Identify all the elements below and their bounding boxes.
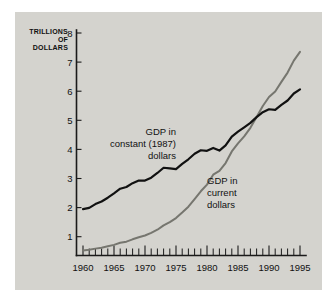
annotation-current-line-2: current: [207, 187, 237, 198]
y-axis-title-line-3: DOLLARS: [33, 44, 68, 51]
annotation-gdp-current-dollars: GDP in current dollars: [207, 175, 237, 210]
annotation-current-line-3: dollars: [207, 199, 235, 210]
x-tick-label: 1965: [103, 262, 124, 273]
x-tick-label: 1990: [258, 262, 279, 273]
y-tick-label: 8: [67, 28, 72, 39]
annotation-constant-line-2: constant (1987): [110, 138, 176, 149]
y-tick-label: 3: [67, 173, 72, 184]
y-tick-label: 1: [67, 231, 72, 242]
y-tick-label: 4: [67, 144, 72, 155]
annotation-constant-line-1: GDP in: [146, 126, 176, 137]
y-axis-title-line-1: TRILLIONS: [29, 28, 68, 35]
y-tick-label: 6: [67, 86, 72, 97]
y-tick-label: 5: [67, 115, 72, 126]
gdp-line-chart: TRILLIONS OF DOLLARS 12345678 1960196519…: [0, 0, 336, 301]
annotation-current-line-1: GDP in: [207, 175, 237, 186]
x-tick-label: 1975: [165, 262, 186, 273]
x-tick-label: 1980: [196, 262, 217, 273]
annotation-constant-line-3: dollars: [148, 150, 176, 161]
x-tick-label: 1970: [134, 262, 155, 273]
x-tick-label: 1995: [289, 262, 310, 273]
y-tick-label: 2: [67, 202, 72, 213]
x-tick-label: 1960: [72, 262, 93, 273]
y-tick-label: 7: [67, 57, 72, 68]
x-tick-label: 1985: [227, 262, 248, 273]
